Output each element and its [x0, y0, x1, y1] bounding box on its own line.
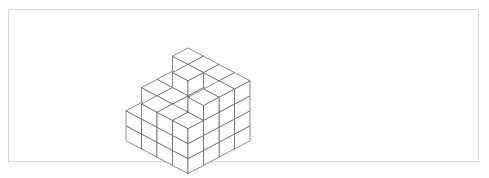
cube-group: [126, 48, 250, 174]
isometric-cube-stack-figure: [0, 0, 489, 178]
screenshot-canvas: [0, 0, 489, 178]
